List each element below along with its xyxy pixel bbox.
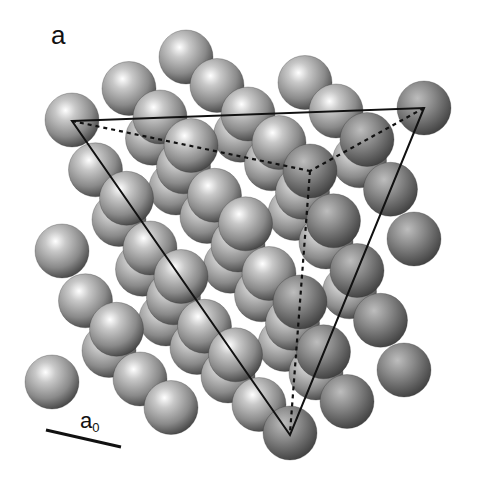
atom-sphere bbox=[387, 212, 441, 266]
atom-sphere bbox=[90, 302, 144, 356]
atom-sphere bbox=[144, 381, 198, 435]
lattice-drawing bbox=[0, 0, 477, 491]
atom-sphere bbox=[35, 224, 89, 278]
fcc-lattice-figure: a a0 bbox=[0, 0, 477, 491]
atom-sphere bbox=[377, 343, 431, 397]
atom-sphere bbox=[320, 375, 374, 429]
scale-bar-label: a0 bbox=[80, 408, 99, 435]
atom-sphere bbox=[354, 293, 408, 347]
lattice-constant-symbol: a bbox=[80, 408, 92, 433]
panel-label: a bbox=[51, 20, 65, 51]
atom-sphere bbox=[307, 194, 361, 248]
atom-sphere bbox=[219, 197, 273, 251]
atom-spheres bbox=[25, 30, 451, 460]
atom-sphere bbox=[25, 355, 79, 409]
lattice-constant-subscript: 0 bbox=[92, 420, 99, 435]
